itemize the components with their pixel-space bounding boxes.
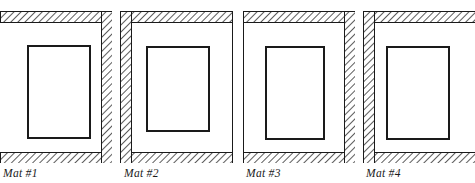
mat-opening (266, 47, 324, 139)
hatch-band-top (120, 11, 233, 22)
mat-outline (363, 11, 475, 163)
mat-outline (120, 11, 233, 163)
mat-panel (0, 11, 112, 163)
mat-outline (243, 11, 355, 163)
hatch-band-bottom (243, 152, 355, 163)
hatch-band-bottom (0, 152, 112, 163)
hatch-band-top (243, 11, 355, 22)
mat-opening (28, 46, 90, 138)
mat-label: Mat #1 (3, 167, 38, 179)
mat-panel (363, 11, 475, 163)
mat-panel (243, 11, 355, 163)
hatch-band-bottom (120, 152, 233, 163)
hatch-band-left (363, 11, 374, 163)
hatch-band-right (101, 11, 112, 163)
hatch-band-top (0, 11, 112, 22)
mat-opening (147, 47, 209, 131)
mat-label: Mat #2 (124, 167, 159, 179)
mat-outline (0, 11, 112, 163)
mat-panel (120, 11, 233, 163)
mat-label: Mat #3 (246, 167, 281, 179)
hatch-band-bottom (363, 152, 475, 163)
hatch-band-top (363, 11, 475, 22)
hatch-band-right (344, 11, 355, 163)
mat-label: Mat #4 (366, 167, 401, 179)
hatch-band-left (120, 11, 131, 163)
mat-opening (387, 47, 449, 139)
